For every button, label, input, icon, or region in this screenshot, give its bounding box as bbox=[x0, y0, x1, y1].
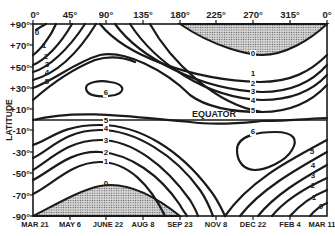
top-tick-label: 90° bbox=[99, 9, 114, 20]
contour-label: 3 bbox=[104, 136, 109, 145]
x-tick-label: MAR 11 bbox=[308, 220, 335, 229]
contour-label: 1 bbox=[104, 157, 109, 166]
equator-label: EQUATOR bbox=[192, 109, 237, 119]
y-tick-label: +50° bbox=[10, 62, 30, 73]
contour-label: 0 bbox=[35, 28, 40, 37]
contour-label: 6 bbox=[251, 127, 256, 136]
contour-label: 1 bbox=[42, 41, 47, 50]
x-tick-label: DEC 22 bbox=[240, 220, 266, 229]
y-tick-label: +30° bbox=[10, 83, 30, 94]
contour-label: 4 bbox=[104, 124, 109, 133]
x-tick-label: JUNE 22 bbox=[93, 220, 123, 229]
contour-5-north bbox=[33, 114, 327, 123]
contour-label: 0 bbox=[104, 179, 109, 188]
contour-label: 5 bbox=[45, 77, 50, 86]
y-tick-label: -50° bbox=[12, 168, 30, 179]
y-tick-label: +70° bbox=[10, 40, 30, 51]
contour-label: 1 bbox=[251, 69, 256, 78]
y-tick-label: -70° bbox=[12, 190, 30, 201]
top-tick-label: 270° bbox=[243, 9, 263, 20]
top-tick-label: 135° bbox=[133, 9, 153, 20]
contour-label: 2 bbox=[311, 181, 316, 190]
x-tick-label: AUG 8 bbox=[132, 220, 155, 229]
top-tick-label: 45° bbox=[63, 9, 78, 20]
x-tick-label: MAR 21 bbox=[21, 220, 49, 229]
contour-label: 6 bbox=[104, 88, 109, 97]
contour-label: 1 bbox=[312, 193, 317, 202]
top-tick-label: 315° bbox=[280, 9, 300, 20]
bottom-axis: MAR 21 MAY 6 JUNE 22 AUG 8 SEP 23 NOV 8 … bbox=[21, 216, 335, 229]
top-tick-label: 0° bbox=[30, 9, 39, 20]
y-tick-label: +90° bbox=[10, 19, 30, 30]
x-tick-label: MAY 6 bbox=[59, 220, 81, 229]
contour-label: 4 bbox=[311, 161, 316, 170]
contour-label: 0 bbox=[319, 202, 324, 211]
x-tick-label: FEB 4 bbox=[279, 220, 301, 229]
y-tick-label: -10° bbox=[12, 125, 30, 136]
x-tick-label: NOV 8 bbox=[205, 220, 228, 229]
contour-label: 2 bbox=[104, 148, 109, 157]
x-tick-label: SEP 23 bbox=[167, 220, 192, 229]
contour-label: 5 bbox=[251, 106, 256, 115]
top-tick-label: 0° bbox=[322, 9, 331, 20]
south-shaded-region bbox=[33, 185, 180, 216]
contour-label: 4 bbox=[251, 96, 256, 105]
contour-label: 0 bbox=[251, 49, 256, 58]
contour-label: 3 bbox=[311, 171, 316, 180]
top-axis: 0° 45° 90° 135° 180° 225° 270° 315° 0° bbox=[30, 9, 331, 24]
y-tick-label: -30° bbox=[12, 147, 30, 158]
contour-chart: 0° 45° 90° 135° 180° 225° 270° 315° 0° +… bbox=[0, 0, 335, 236]
top-tick-label: 225° bbox=[206, 9, 226, 20]
y-axis-title: LATITUDE bbox=[4, 99, 14, 141]
contour-label: 4 bbox=[45, 68, 50, 77]
top-tick-label: 180° bbox=[170, 9, 190, 20]
contour-label: 5 bbox=[310, 147, 315, 156]
contour-label: 3 bbox=[251, 87, 256, 96]
left-axis: +90° +70° +50° +30° +10° -10° -30° -50° … bbox=[4, 19, 33, 222]
